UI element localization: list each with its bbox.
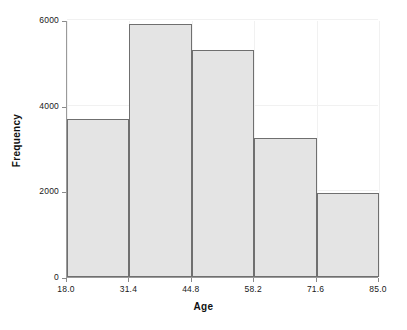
- y-tick-mark: [62, 278, 66, 279]
- y-tick-mark: [62, 192, 66, 193]
- histogram-bar: [192, 50, 254, 277]
- x-tick-label: 18.0: [46, 284, 86, 294]
- x-tick-mark: [66, 278, 67, 282]
- histogram-bar: [317, 193, 379, 277]
- y-tick-mark: [62, 107, 66, 108]
- y-axis-title: Frequency: [11, 61, 22, 221]
- x-tick-label: 44.8: [171, 284, 211, 294]
- gridline-vertical: [379, 21, 380, 277]
- y-tick-mark: [62, 21, 66, 22]
- x-tick-mark: [378, 278, 379, 282]
- x-tick-mark: [253, 278, 254, 282]
- bars-group: [67, 21, 378, 277]
- x-axis-title: Age: [0, 301, 407, 312]
- x-tick-label: 31.4: [108, 284, 148, 294]
- x-tick-mark: [128, 278, 129, 282]
- x-tick-label: 85.0: [358, 284, 398, 294]
- histogram-bar: [254, 138, 316, 277]
- x-tick-label: 58.2: [233, 284, 273, 294]
- histogram-chart: 18.031.444.858.271.685.0 0200040006000 A…: [0, 0, 407, 330]
- gridline-horizontal: [67, 19, 378, 20]
- histogram-bar: [67, 119, 129, 277]
- x-tick-mark: [316, 278, 317, 282]
- x-tick-label: 71.6: [296, 284, 336, 294]
- histogram-bar: [129, 24, 191, 277]
- x-tick-mark: [191, 278, 192, 282]
- y-axis-title-wrapper: Frequency: [0, 0, 28, 300]
- plot-area: [66, 21, 378, 278]
